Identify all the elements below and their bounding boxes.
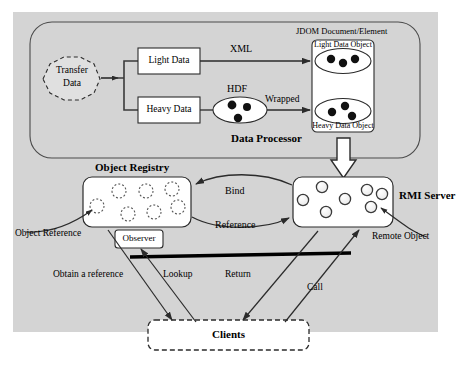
heavy-object-dot: [328, 108, 336, 116]
remote-object-slot: [316, 181, 327, 192]
heavy-data-object-ellipse: [315, 99, 371, 124]
return-label: Return: [225, 270, 251, 280]
object-registry-title: Object Registry: [95, 162, 169, 173]
remote-object-slot: [320, 206, 331, 217]
light-object-dot: [327, 55, 335, 63]
heavy-data-label: Heavy Data: [138, 105, 200, 115]
bind-label: Bind: [225, 186, 244, 196]
rmi-server-title: RMI Server: [399, 190, 456, 201]
lookup-label: Lookup: [163, 270, 193, 280]
observer-label: Observer: [115, 234, 163, 243]
light-data-object-label: Light Data Object: [312, 41, 374, 49]
wrapped-label: Wrapped: [265, 95, 299, 105]
transfer-data-line2: Data: [49, 79, 95, 89]
remote-object-slot: [365, 201, 376, 212]
remote-object-slot: [376, 188, 387, 199]
remote-object-slot: [361, 184, 372, 195]
remote-object-slot: [297, 194, 308, 205]
object-reference-label: Object Reference: [15, 229, 81, 239]
hdf-dot: [243, 103, 251, 111]
diagram-root: Data Processor Transfer Data Light Data …: [0, 0, 462, 372]
light-object-dot: [339, 59, 347, 67]
xml-label: XML: [230, 44, 252, 54]
jdom-document-label: JDOM Document/Element: [296, 27, 387, 36]
hdf-dot: [234, 114, 242, 122]
light-object-dot: [351, 55, 359, 63]
hdf-label: HDF: [227, 84, 247, 94]
obtain-a-reference-label: Obtain a reference: [53, 270, 123, 280]
light-data-label: Light Data: [138, 56, 200, 66]
reference-label: Reference: [215, 220, 256, 230]
remote-object-slot: [339, 193, 350, 204]
hdf-dot: [228, 101, 237, 110]
heavy-object-dot: [341, 102, 349, 110]
heavy-object-dot: [348, 112, 356, 120]
object-registry-box: [83, 177, 191, 227]
remote-object-label: Remote Object: [372, 232, 429, 242]
clients-label: Clients: [148, 329, 309, 340]
transfer-data-line1: Transfer: [49, 66, 95, 76]
data-processor-label: Data Processor: [231, 133, 302, 144]
call-label: Call: [307, 283, 323, 293]
heavy-data-object-label: Heavy Data Object: [310, 122, 376, 130]
